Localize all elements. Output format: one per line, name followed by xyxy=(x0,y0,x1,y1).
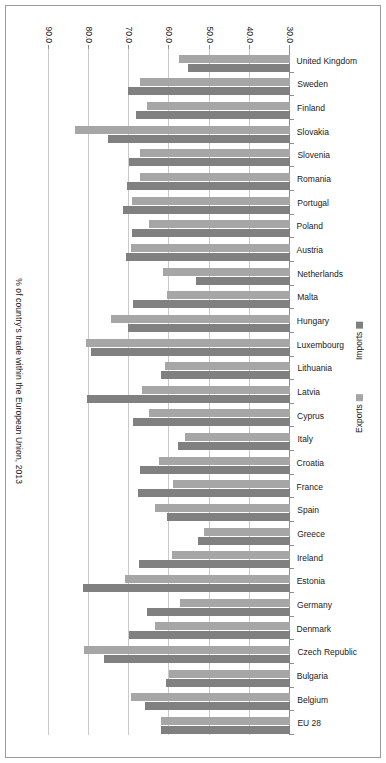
bar-imports xyxy=(123,206,290,214)
x-tick-labels: 30.040.050.060.070.080.090.0 xyxy=(49,5,290,49)
bar-imports xyxy=(91,348,290,356)
bar-group: Malta xyxy=(49,286,290,310)
category-label: Croatia xyxy=(297,458,324,468)
bar-exports xyxy=(111,315,290,323)
bar-group: Belgium xyxy=(49,688,290,712)
chart-legend: ExportsImports xyxy=(344,288,374,433)
bar-imports xyxy=(133,300,290,308)
bar-group: Italy xyxy=(49,428,290,452)
x-tick-label: 50.0 xyxy=(205,26,215,43)
bar-imports xyxy=(132,229,290,237)
category-label: Poland xyxy=(297,221,323,231)
category-tick xyxy=(290,95,294,96)
bar-exports xyxy=(173,480,290,488)
category-tick xyxy=(290,166,294,167)
bar-imports xyxy=(87,395,290,403)
bar-group: Spain xyxy=(49,498,290,522)
bar-group: Slovenia xyxy=(49,144,290,168)
category-label: Cyprus xyxy=(297,411,324,421)
bar-imports xyxy=(127,182,290,190)
x-tick-label: 70.0 xyxy=(124,26,134,43)
bar-imports xyxy=(178,442,290,450)
category-tick xyxy=(290,308,294,309)
bar-exports xyxy=(75,126,290,134)
category-tick xyxy=(290,72,294,73)
bar-exports xyxy=(155,504,290,512)
category-tick xyxy=(290,710,294,711)
bar-group: France xyxy=(49,475,290,499)
bar-group: Poland xyxy=(49,215,290,239)
category-tick xyxy=(290,285,294,286)
category-label: Czech Republic xyxy=(297,647,357,657)
category-tick xyxy=(290,261,294,262)
bar-exports xyxy=(131,693,290,701)
category-label: Italy xyxy=(297,434,313,444)
category-label: Germany xyxy=(297,600,332,610)
legend-label: Imports xyxy=(354,332,364,360)
bar-imports xyxy=(166,679,290,687)
category-tick xyxy=(290,639,294,640)
bar-exports xyxy=(159,457,290,465)
category-label: Latvia xyxy=(297,387,320,397)
bar-imports xyxy=(128,324,290,332)
category-label: Greece xyxy=(297,529,325,539)
plot-area: EU 28BelgiumBulgariaCzech RepublicDenmar… xyxy=(49,49,290,735)
bar-group: Bulgaria xyxy=(49,664,290,688)
category-label: Finland xyxy=(297,103,325,113)
bar-exports xyxy=(170,670,291,678)
category-tick xyxy=(290,474,294,475)
category-label: Luxembourg xyxy=(297,340,344,350)
bar-exports xyxy=(84,646,290,654)
category-label: United Kingdom xyxy=(297,56,357,66)
category-tick xyxy=(290,143,294,144)
x-tick-label: 80.0 xyxy=(84,26,94,43)
bar-imports xyxy=(140,466,290,474)
bar-imports xyxy=(126,253,290,261)
bar-imports xyxy=(188,64,290,72)
bar-group: Lithuania xyxy=(49,357,290,381)
category-label: Sweden xyxy=(297,80,328,90)
category-label: Slovakia xyxy=(297,127,329,137)
legend-item: Imports xyxy=(344,322,374,360)
bar-group: Romania xyxy=(49,167,290,191)
category-label: Netherlands xyxy=(297,269,343,279)
category-tick xyxy=(290,616,294,617)
category-label: Belgium xyxy=(297,695,328,705)
category-tick xyxy=(290,379,294,380)
bar-group: Portugal xyxy=(49,191,290,215)
bar-group: Czech Republic xyxy=(49,640,290,664)
category-label: EU 28 xyxy=(297,718,321,728)
x-tick-label: 30.0 xyxy=(285,26,295,43)
rotated-chart-container: % of country's trade within the European… xyxy=(0,0,386,763)
category-tick xyxy=(290,687,294,688)
category-tick xyxy=(290,403,294,404)
legend-label: Exports xyxy=(354,404,364,433)
legend-swatch-icon xyxy=(356,394,363,401)
x-tick-label: 90.0 xyxy=(44,26,54,43)
bar-exports xyxy=(142,386,290,394)
bar-exports xyxy=(165,362,290,370)
legend-swatch-icon xyxy=(356,322,363,329)
category-label: Portugal xyxy=(297,198,329,208)
category-label: Spain xyxy=(297,505,319,515)
bar-group: Cyprus xyxy=(49,404,290,428)
category-label: Lithuania xyxy=(297,363,332,373)
bar-exports xyxy=(168,291,291,299)
bar-exports xyxy=(149,409,290,417)
bar-group: Austria xyxy=(49,238,290,262)
x-tick-label: 60.0 xyxy=(165,26,175,43)
bar-exports xyxy=(125,575,290,583)
category-tick xyxy=(290,521,294,522)
bar-exports xyxy=(161,717,290,725)
bar-group: United Kingdom xyxy=(49,49,290,73)
bar-group: Netherlands xyxy=(49,262,290,286)
category-label: Malta xyxy=(297,292,318,302)
bar-imports xyxy=(168,513,291,521)
axis-title-text: % of country's trade within the European… xyxy=(14,279,24,485)
category-tick xyxy=(290,450,294,451)
bar-imports xyxy=(147,608,290,616)
bar-group: EU 28 xyxy=(49,711,290,735)
category-label: Romania xyxy=(297,174,331,184)
category-label: Denmark xyxy=(297,624,331,634)
category-tick xyxy=(290,119,294,120)
